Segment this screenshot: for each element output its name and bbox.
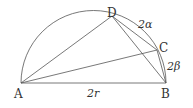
arc-label-CB: 2β [166,60,180,73]
segment-AD [21,16,112,83]
segment-label-AB: 2r [86,87,100,100]
label-B: B [161,87,170,101]
label-C: C [159,41,168,55]
label-A: A [13,87,23,101]
segment-AC [21,50,157,83]
diagram-svg: A B C D 2α 2β 2r [0,0,193,108]
label-D: D [107,6,117,20]
arc-label-DC: 2α [137,18,153,31]
semicircle-diagram: A B C D 2α 2β 2r [0,0,193,108]
